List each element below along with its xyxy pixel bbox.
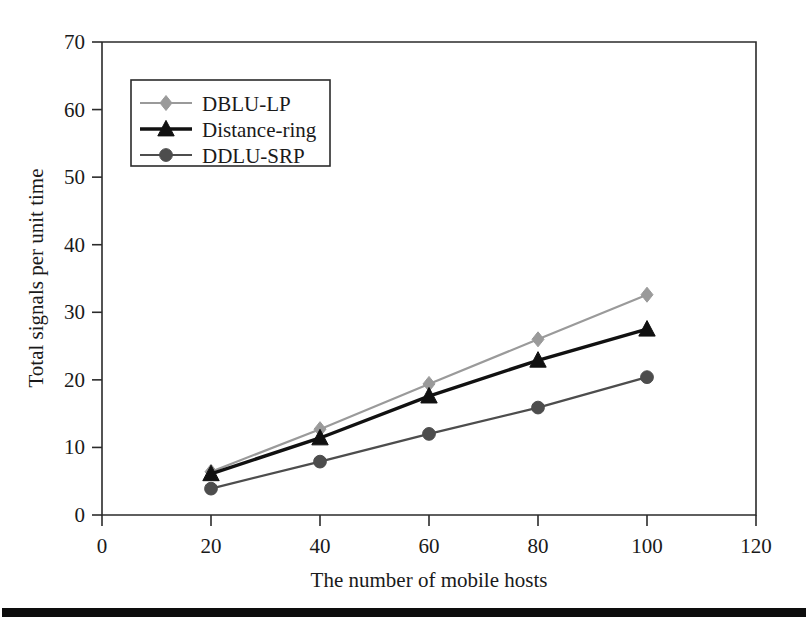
x-tick-label: 20 — [201, 534, 222, 558]
data-point-marker — [314, 455, 327, 468]
y-tick-label: 10 — [64, 435, 85, 459]
legend-label: Distance-ring — [202, 118, 317, 142]
footer-rule — [2, 608, 806, 617]
x-tick-label: 100 — [631, 534, 663, 558]
data-point-marker — [423, 428, 436, 441]
y-tick-label: 20 — [64, 368, 85, 392]
y-tick-label: 40 — [64, 233, 85, 257]
y-tick-label: 70 — [64, 30, 85, 54]
chart-figure: 010203040506070 020406080100120 DBLU-LPD… — [0, 0, 808, 628]
x-tick-label: 0 — [97, 534, 108, 558]
x-tick-label: 80 — [528, 534, 549, 558]
data-point-marker — [641, 287, 653, 302]
series-dblu-lp — [205, 287, 653, 479]
data-point-marker — [641, 371, 654, 384]
legend-label: DDLU-SRP — [202, 144, 305, 168]
series-distance-ring — [203, 321, 655, 481]
y-axis-title: Total signals per unit time — [24, 169, 48, 388]
x-axis-title: The number of mobile hosts — [311, 568, 548, 592]
data-point-marker — [532, 332, 544, 347]
data-series-layer — [203, 287, 655, 495]
data-point-marker — [639, 321, 655, 337]
y-tick-label: 60 — [64, 98, 85, 122]
data-point-marker — [205, 482, 218, 495]
data-point-marker — [160, 149, 173, 162]
x-tick-label: 120 — [740, 534, 772, 558]
y-tick-label: 0 — [75, 503, 86, 527]
line-chart: 010203040506070 020406080100120 DBLU-LPD… — [0, 0, 808, 628]
x-axis-ticks: 020406080100120 — [97, 515, 772, 558]
chart-legend: DBLU-LPDistance-ringDDLU-SRP — [131, 80, 330, 168]
x-tick-label: 40 — [310, 534, 331, 558]
y-axis-ticks: 010203040506070 — [64, 30, 102, 527]
y-tick-label: 30 — [64, 300, 85, 324]
x-tick-label: 60 — [419, 534, 440, 558]
legend-label: DBLU-LP — [202, 92, 291, 116]
data-point-marker — [532, 401, 545, 414]
y-tick-label: 50 — [64, 165, 85, 189]
